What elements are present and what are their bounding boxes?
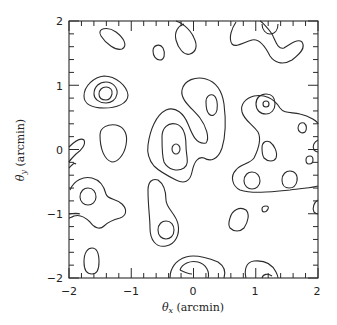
contour-right-small-2 [306,156,313,164]
contour-bottom-center-inner [180,270,192,274]
contour-right-upper-inner [263,101,269,107]
contour-right-mid-oval3 [262,141,277,161]
contour-chain-inner [158,221,174,239]
x-tick-label: 1 [252,285,259,298]
axis-ticks [69,21,318,278]
x-tick-label: 2 [314,285,321,298]
contour-right-edge-2 [313,200,318,214]
contour-center-mid [162,124,187,170]
contour-top-right [230,21,303,63]
contour-bottom-center-outer [170,256,225,278]
contour-center-inner [172,144,180,154]
x-tick-label: −1 [123,285,139,298]
contour-chain-outer [148,179,179,246]
contour-center-oval [206,95,217,116]
contour-right-upper-mid [256,94,275,114]
plot-frame [69,21,318,278]
y-tick-label: 0 [56,144,63,157]
y-tick-label: −2 [47,272,63,285]
contour-lines [69,21,318,278]
contour-blob-left-mid [100,125,127,162]
contour-right-upper-outer [242,96,318,125]
contour-left-edge-2 [69,163,76,168]
y-tick-label: 2 [56,15,63,28]
y-axis-label: θy (arcmin) [14,119,28,181]
contour-peak-upper-left-inner [99,87,112,100]
contour-blob-right-lower [229,208,248,231]
contour-center-outer [148,78,226,182]
contour-right-small-1 [298,123,306,133]
contour-left-edge [69,139,85,162]
x-tick-label: −2 [61,285,77,298]
contour-right-mid-oval2 [282,171,297,188]
y-tick-label: −1 [47,208,63,221]
contour-blob-bottom-left [84,248,99,274]
contour-bottom-center-mid [180,261,209,278]
contour-top-center [175,21,196,54]
y-tick-label: 1 [56,80,63,93]
contour-lower-left-outer [69,178,126,229]
contour-blob-top-left [100,29,125,50]
contour-right-edge-1 [313,140,318,152]
contour-tiny-right [262,206,268,212]
contour-bottom-right-outer [245,261,278,278]
contour-plot: −2 −1 0 1 2 −2 −1 0 1 2 θx (arcmin) θy (… [0,0,337,325]
x-axis-label: θx (arcmin) [162,301,224,315]
y-tick-labels: −2 −1 0 1 2 [47,15,63,285]
contour-blob-top-mid [153,45,164,60]
x-tick-label: 0 [190,285,197,298]
contour-right-mid-oval1 [244,172,260,189]
contour-bottom-right-inner [262,274,272,278]
x-tick-labels: −2 −1 0 1 2 [61,285,321,298]
contour-lower-left-inner [80,188,96,205]
